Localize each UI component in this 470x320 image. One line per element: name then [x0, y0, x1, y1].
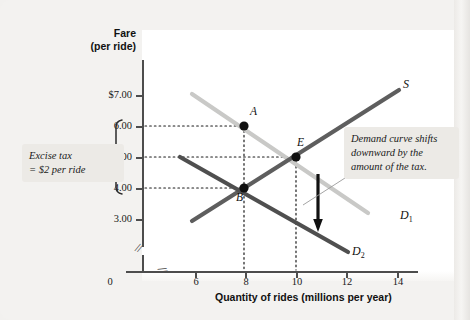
x-axis-title: Quantity of rides (millions per year) — [215, 291, 392, 303]
demand-curve-d2 — [180, 157, 348, 252]
point-label-e: E — [297, 136, 304, 148]
excise-tax-line2: = $2 per ride — [29, 163, 117, 177]
excise-tax-callout: Excise tax = $2 per ride — [22, 144, 124, 182]
point-label-b: B — [236, 191, 243, 203]
curve-label-demand2: D2 — [352, 244, 365, 260]
curve-label-supply: S — [403, 77, 409, 92]
figure-container: Fare (per ride) // // $7.00 6.00 5.00 4.… — [0, 0, 470, 320]
point-e — [291, 152, 300, 161]
excise-tax-line1: Excise tax — [29, 149, 117, 163]
curve-label-demand1: D1 — [400, 208, 413, 224]
demand-curve-d1 — [192, 94, 368, 213]
point-label-a: A — [250, 105, 257, 117]
demand-shift-callout: Demand curve shifts downward by the amou… — [344, 127, 459, 179]
point-a — [239, 121, 248, 130]
